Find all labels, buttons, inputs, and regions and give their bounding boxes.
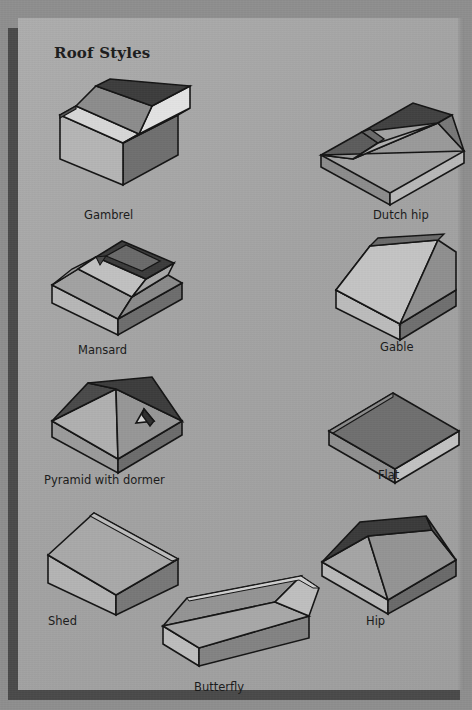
figure-butterfly: [153, 568, 328, 678]
caption-dutch-hip: Dutch hip: [373, 208, 429, 222]
page-title: Roof Styles: [54, 44, 151, 62]
caption-shed: Shed: [48, 614, 77, 628]
figure-gambrel: [38, 73, 198, 203]
caption-hip: Hip: [366, 614, 385, 628]
figure-dutch-hip: [318, 93, 472, 208]
caption-gable: Gable: [380, 340, 414, 354]
illustration-page: Roof Styles Gambrel: [0, 0, 472, 710]
caption-gambrel: Gambrel: [84, 208, 133, 222]
figure-hip: [316, 508, 472, 613]
figure-pyramid-with-dormer: [40, 373, 200, 478]
figure-gable: [326, 228, 472, 338]
caption-butterfly: Butterfly: [194, 680, 244, 694]
caption-flat: Flat: [378, 468, 399, 482]
figure-mansard: [40, 223, 200, 343]
figure-flat: [323, 383, 472, 478]
caption-mansard: Mansard: [78, 343, 127, 357]
illustration-card: Roof Styles Gambrel: [18, 18, 464, 690]
caption-pyramid-with-dormer: Pyramid with dormer: [44, 473, 165, 487]
